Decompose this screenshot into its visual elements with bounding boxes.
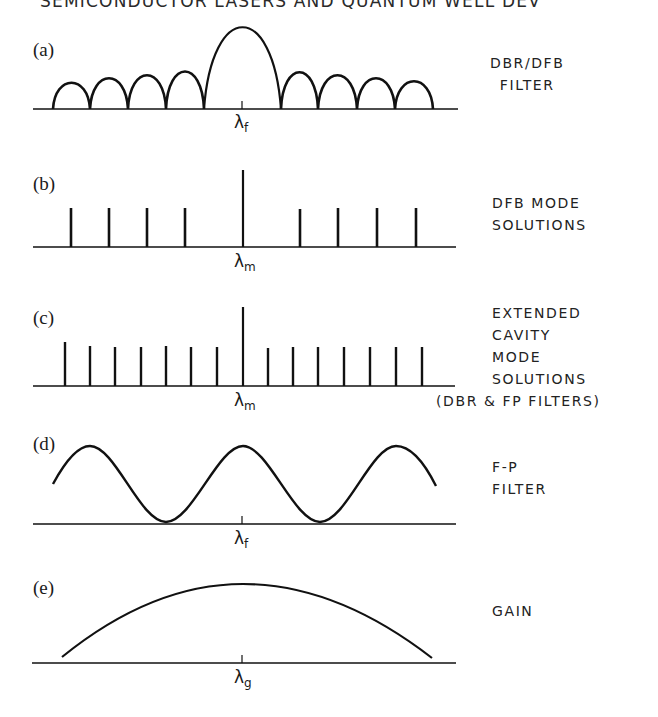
panel-c-axis-marker: λm	[234, 390, 256, 413]
panel-c-title: EXTENDEDCAVITYMODESOLUTIONS(DBR & FP FIL…	[436, 302, 601, 412]
panel-a-title: DBR/DFB FILTER	[490, 52, 564, 96]
panel-e-title: GAIN	[492, 600, 533, 622]
panel-c-plot	[33, 307, 455, 386]
panel-a-axis-marker: λf	[234, 112, 248, 135]
panel-b-label: (b)	[33, 173, 55, 195]
panel-c-title-line: CAVITY	[436, 324, 601, 346]
panel-d-plot	[33, 446, 456, 524]
panel-c-title-line: (DBR & FP FILTERS)	[436, 390, 601, 412]
panel-d-axis-marker: λf	[234, 528, 248, 551]
panel-e-label: (e)	[33, 577, 54, 599]
panel-c-title-line: MODE	[436, 346, 601, 368]
panel-e-gain-curve	[62, 584, 432, 658]
panel-d-curve	[53, 446, 436, 522]
panel-a-sidelobes-right	[281, 72, 433, 109]
panel-c-label: (c)	[33, 307, 54, 329]
panel-c-title-line: EXTENDED	[436, 302, 601, 324]
panel-d-label: (d)	[33, 433, 55, 455]
panel-e-axis-marker: λg	[234, 667, 252, 690]
panel-b-axis-marker: λm	[234, 251, 256, 274]
panel-a-main-lobe	[204, 27, 281, 109]
panel-b-title: DFB MODE SOLUTIONS	[492, 192, 587, 236]
panel-e-plot	[32, 584, 456, 663]
panel-c-title-line: SOLUTIONS	[436, 368, 601, 390]
panel-a-plot	[33, 27, 458, 109]
panel-b-plot	[33, 170, 456, 247]
panel-d-title: F-P FILTER	[492, 456, 547, 500]
panel-b-mode-lines	[71, 170, 416, 247]
panel-c-mode-lines	[65, 307, 422, 386]
panel-a-label: (a)	[33, 39, 54, 61]
panel-a-sidelobes-left	[53, 72, 204, 110]
